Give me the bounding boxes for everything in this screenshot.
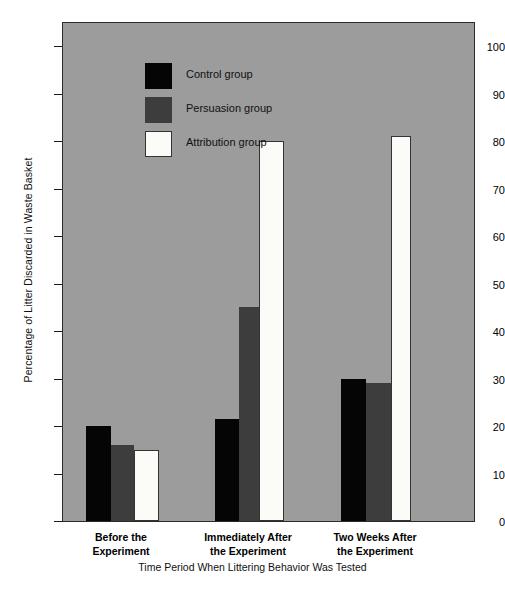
category-label-line: Two Weeks After <box>305 530 445 544</box>
legend-label: Persuasion group <box>186 102 272 114</box>
bar-control <box>86 426 111 521</box>
bar-attribution <box>391 136 411 521</box>
legend-swatch-attribution <box>145 131 172 157</box>
bar-attribution <box>134 450 159 521</box>
bar-persuasion <box>239 307 259 521</box>
x-axis-category-label: Immediately Afterthe Experiment <box>178 530 318 558</box>
bar-chart-figure: Percentage of Litter Discarded in Waste … <box>0 0 505 593</box>
legend-label: Control group <box>186 68 253 80</box>
category-label-line: the Experiment <box>178 544 318 558</box>
bar-control <box>215 419 239 521</box>
legend-label: Attribution group <box>186 136 267 148</box>
legend-swatch-persuasion <box>145 97 172 123</box>
x-axis-category-label: Before theExperiment <box>51 530 191 558</box>
category-label-line: Immediately After <box>178 530 318 544</box>
x-axis-category-label: Two Weeks Afterthe Experiment <box>305 530 445 558</box>
category-label-line: the Experiment <box>305 544 445 558</box>
bar-persuasion <box>111 445 134 521</box>
bar-control <box>341 379 366 522</box>
x-axis-title: Time Period When Littering Behavior Was … <box>0 561 505 573</box>
bar-persuasion <box>366 383 391 521</box>
y-axis-title: Percentage of Litter Discarded in Waste … <box>22 105 34 435</box>
category-label-line: Before the <box>51 530 191 544</box>
category-label-line: Experiment <box>51 544 191 558</box>
plot-area: Control groupPersuasion groupAttribution… <box>62 22 475 522</box>
legend-swatch-control <box>145 63 172 89</box>
bar-attribution <box>259 141 284 521</box>
